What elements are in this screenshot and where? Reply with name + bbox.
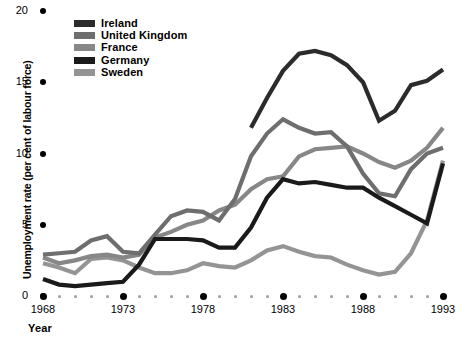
plot-area [0, 0, 462, 339]
series-line-ireland [251, 51, 443, 128]
unemployment-rate-line-chart: Unemployment rate (per cent of labour fo… [0, 0, 462, 339]
